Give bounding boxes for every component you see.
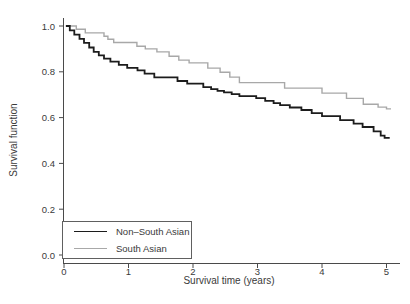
x-axis-title: Survival time (years) bbox=[183, 275, 274, 286]
x-tick-label: 2 bbox=[190, 266, 195, 277]
legend-item-non-south-asian: Non–South Asian bbox=[63, 225, 191, 239]
legend: Non–South Asian South Asian bbox=[62, 221, 192, 259]
y-tick-label: 1.0 bbox=[42, 21, 55, 32]
legend-label-non-south-asian: Non–South Asian bbox=[116, 226, 189, 237]
x-tick-label: 4 bbox=[319, 266, 324, 277]
non-south-asian-line-swatch bbox=[74, 231, 107, 233]
y-tick-label: 0.4 bbox=[42, 158, 55, 169]
legend-label-south-asian: South Asian bbox=[116, 243, 167, 254]
x-tick-label: 1 bbox=[126, 266, 131, 277]
x-tick-label: 0 bbox=[61, 266, 66, 277]
x-tick-label: 5 bbox=[384, 266, 389, 277]
y-tick-label: 0.0 bbox=[42, 250, 55, 261]
y-tick-label: 0.6 bbox=[42, 112, 55, 123]
km-survival-figure: Survival function Survival time (years) … bbox=[0, 0, 410, 304]
south-asian-line-swatch bbox=[74, 248, 107, 249]
y-axis-title: Survival function bbox=[8, 103, 19, 176]
y-tick-label: 0.8 bbox=[42, 66, 55, 77]
y-tick-label: 0.2 bbox=[42, 204, 55, 215]
south-asian-curve bbox=[66, 26, 391, 109]
x-tick-label: 3 bbox=[255, 266, 260, 277]
legend-item-south-asian: South Asian bbox=[63, 242, 191, 256]
